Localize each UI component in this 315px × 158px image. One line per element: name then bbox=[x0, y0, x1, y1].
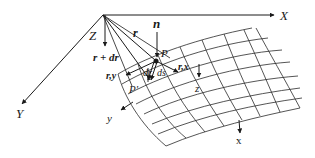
n-label: n bbox=[153, 16, 160, 31]
mesh-line bbox=[202, 40, 242, 120]
p-label: P bbox=[160, 47, 168, 59]
surface-mesh bbox=[118, 28, 302, 146]
r-label: r bbox=[133, 26, 138, 40]
mesh-line bbox=[244, 30, 280, 112]
mesh-line bbox=[224, 34, 260, 116]
ds-label: ds bbox=[157, 67, 166, 78]
local-x-label: x bbox=[236, 134, 242, 146]
local-z-label: z bbox=[194, 82, 200, 94]
local-y-arrow bbox=[121, 102, 133, 110]
tangent-y-label: r,y bbox=[106, 70, 117, 81]
p-prime-label: P' bbox=[128, 83, 139, 95]
local-y-label: y bbox=[106, 112, 112, 124]
mesh-line bbox=[158, 98, 302, 134]
mesh-line bbox=[118, 74, 166, 146]
dr-label: dr bbox=[143, 67, 152, 78]
surface-diagram: X Y Z r r + dr n P P' r,x r,y dr ds z y … bbox=[0, 0, 315, 158]
y-axis-label: Y bbox=[16, 106, 25, 121]
tangent-x-label: r,x bbox=[178, 61, 189, 72]
mesh-line bbox=[166, 108, 300, 146]
z-axis-label: Z bbox=[89, 28, 97, 43]
x-axis-label: X bbox=[279, 8, 289, 23]
mesh-line bbox=[144, 76, 298, 114]
mesh-line bbox=[256, 28, 300, 108]
r-plus-dr-label: r + dr bbox=[93, 51, 120, 63]
